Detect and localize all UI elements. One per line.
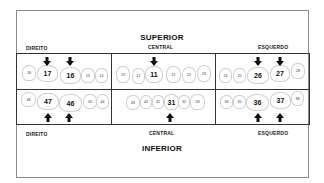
tooth-13[interactable]: 13 <box>116 66 130 83</box>
tooth-18[interactable]: 18 <box>22 65 36 81</box>
tooth-11[interactable]: 11 <box>145 66 163 83</box>
arrow-down-icon <box>276 57 284 66</box>
arrow-up-icon <box>44 113 52 122</box>
tooth-37[interactable]: 37 <box>270 92 291 109</box>
tooth-33[interactable]: 33 <box>190 94 205 110</box>
tooth-41[interactable]: 41 <box>152 95 164 109</box>
lower-label-central: CENTRAL <box>149 130 174 136</box>
tooth-45[interactable]: 45 <box>83 94 97 109</box>
upper-label-left: ESQUERDO <box>258 44 288 50</box>
arrow-down-icon <box>254 57 262 66</box>
tooth-32[interactable]: 32 <box>178 95 190 109</box>
arrow-up-icon <box>65 113 73 122</box>
tooth-46[interactable]: 46 <box>59 94 82 112</box>
arrow-down-icon <box>66 57 74 66</box>
lower-title: INFERIOR <box>0 144 324 153</box>
tooth-35[interactable]: 35 <box>233 95 246 109</box>
tooth-27[interactable]: 27 <box>270 65 290 82</box>
tooth-26[interactable]: 26 <box>247 67 269 84</box>
tooth-36[interactable]: 36 <box>246 94 269 111</box>
tooth-21[interactable]: 21 <box>166 66 181 83</box>
tooth-23[interactable]: 23 <box>197 65 211 82</box>
lower-label-left: ESQUERDO <box>258 130 288 136</box>
tooth-38[interactable]: 38 <box>291 91 304 106</box>
arrow-up-icon <box>276 113 284 122</box>
tooth-15[interactable]: 15 <box>81 68 95 83</box>
upper-label-central: CENTRAL <box>148 44 173 50</box>
tooth-44[interactable]: 44 <box>96 94 109 109</box>
tooth-22[interactable]: 22 <box>182 67 196 83</box>
tooth-17[interactable]: 17 <box>37 65 58 82</box>
tooth-34[interactable]: 34 <box>220 95 233 109</box>
tooth-28[interactable]: 28 <box>291 63 305 79</box>
tooth-14[interactable]: 14 <box>95 68 108 83</box>
tooth-31[interactable]: 31 <box>164 94 179 110</box>
tooth-42[interactable]: 42 <box>140 95 152 109</box>
tooth-16[interactable]: 16 <box>60 67 81 84</box>
tooth-25[interactable]: 25 <box>233 68 246 83</box>
tooth-24[interactable]: 24 <box>219 68 232 83</box>
arrow-up-icon <box>254 113 262 122</box>
upper-title: SUPERIOR <box>0 33 324 42</box>
tooth-43[interactable]: 43 <box>126 95 140 110</box>
tooth-12[interactable]: 12 <box>132 68 145 84</box>
arch-divider <box>16 89 310 90</box>
arrow-down-icon <box>43 57 51 66</box>
arrow-up-icon <box>166 113 174 122</box>
tooth-47[interactable]: 47 <box>37 93 59 110</box>
lower-label-right: DIREITO <box>26 131 48 137</box>
upper-label-right: DIREITO <box>26 45 48 51</box>
arrow-down-icon <box>150 57 158 66</box>
tooth-48[interactable]: 48 <box>21 92 36 107</box>
